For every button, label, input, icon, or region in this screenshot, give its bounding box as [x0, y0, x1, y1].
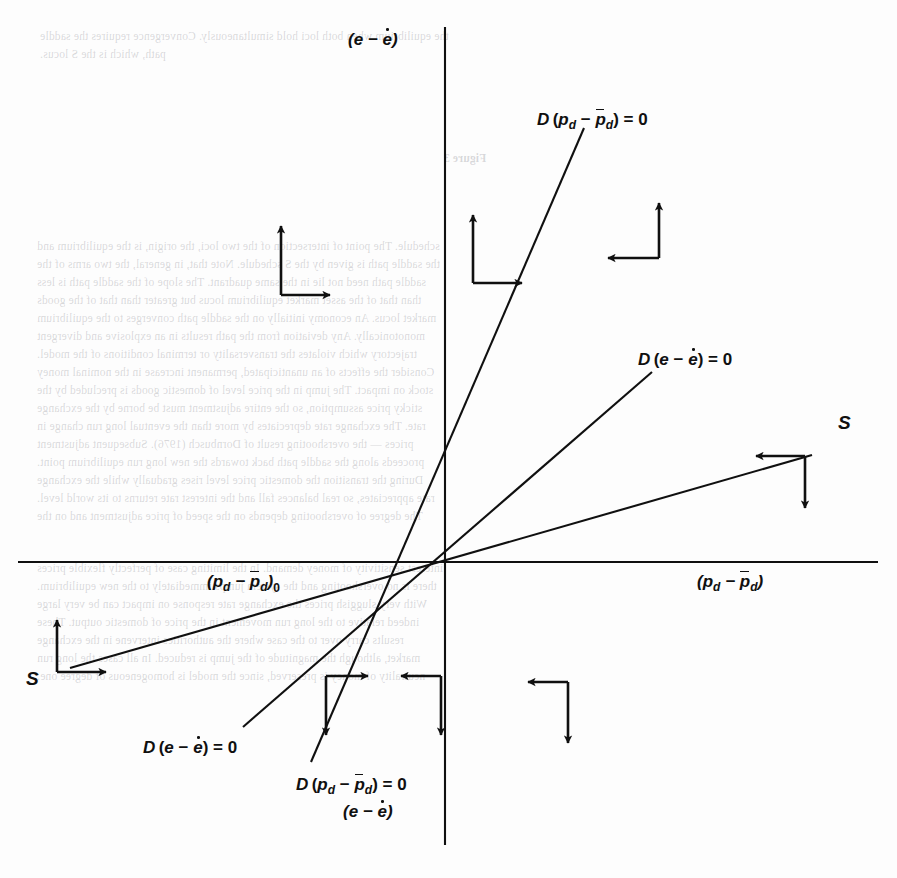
saddle-label-left: S — [26, 668, 39, 690]
locus-label-e-upper: D (e − e) = 0 — [638, 350, 732, 370]
locus-label-pd-lower: D (pd − pd) = 0 — [296, 775, 407, 797]
y-axis-label-top: (e − e) — [348, 30, 398, 50]
saddle-label-right: S — [838, 412, 851, 434]
phase-diagram-svg — [0, 0, 897, 878]
y-axis-label-bottom: (e − e) — [343, 802, 393, 822]
locus-label-pd-upper: D (pd − pd) = 0 — [537, 110, 648, 132]
arrow-pair-lower-right — [528, 682, 568, 743]
arrow-pair-upper-right — [608, 203, 659, 258]
x-axis-label-left: (pd − pd)0 — [207, 572, 280, 595]
locus-pd — [311, 128, 584, 762]
x-axis-label-right: (pd − pd) — [697, 572, 763, 594]
locus-label-e-lower: D (e − e) = 0 — [143, 738, 237, 758]
locus-e — [243, 372, 652, 727]
arrow-pair-lower-middle — [401, 676, 441, 735]
arrow-pair-lower-left — [326, 676, 368, 735]
arrow-pair-upper-left — [281, 226, 330, 295]
figure-page: the equilibrium when both loci hold simu… — [0, 0, 897, 878]
arrow-pair-upper-middle — [473, 215, 522, 283]
